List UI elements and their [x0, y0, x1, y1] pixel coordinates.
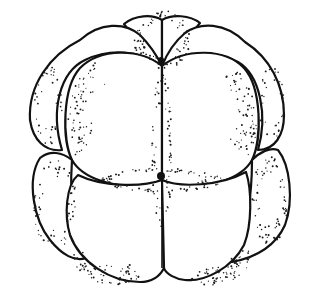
top-pore	[158, 57, 164, 63]
central-pore	[157, 172, 165, 180]
blastomere-upper-front-left	[65, 53, 162, 186]
embryo-drawing	[0, 0, 313, 296]
blastomere-upper-front-right	[162, 53, 259, 186]
embryo-illustration: stippled line drawing of a cleavage-stag…	[0, 0, 313, 296]
blastomere-lower-front-left	[67, 175, 164, 282]
